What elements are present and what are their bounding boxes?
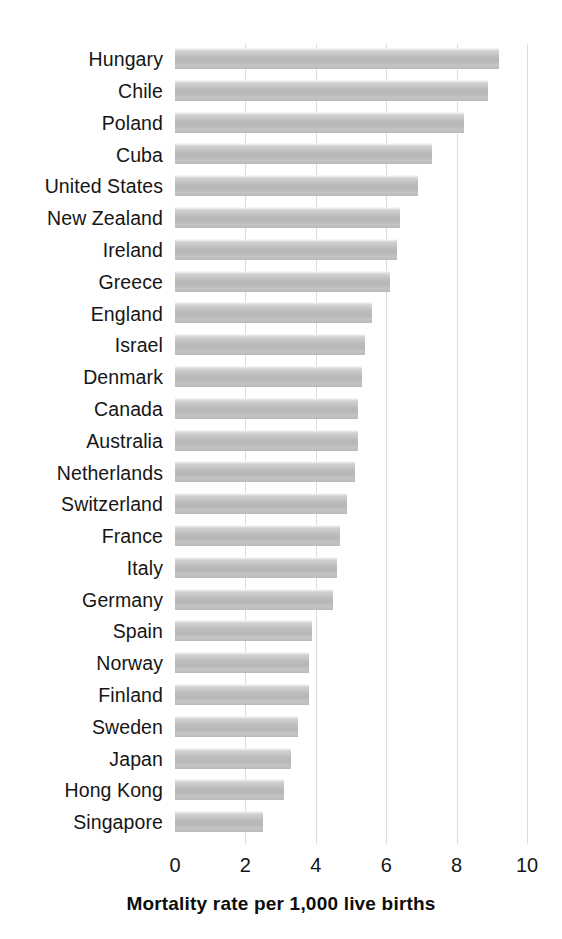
category-label: Cuba xyxy=(116,146,163,166)
bar-row xyxy=(175,489,527,521)
category-label: Norway xyxy=(96,654,163,674)
bar-row xyxy=(175,457,527,489)
bar xyxy=(175,207,400,228)
bar-row xyxy=(175,108,527,140)
bar-row xyxy=(175,298,527,330)
category-label-row: Japan xyxy=(0,744,163,776)
bar-row xyxy=(175,139,527,171)
category-label: Hungary xyxy=(89,50,163,70)
bar-row xyxy=(175,203,527,235)
bar-row xyxy=(175,648,527,680)
x-tick-label-2: 2 xyxy=(240,855,251,875)
category-label-row: Canada xyxy=(0,394,163,426)
bar xyxy=(175,366,362,387)
bar-row xyxy=(175,553,527,585)
category-label-row: United States xyxy=(0,171,163,203)
category-label-row: Ireland xyxy=(0,235,163,267)
category-label-row: Italy xyxy=(0,553,163,585)
bar xyxy=(175,398,358,419)
category-label: Canada xyxy=(94,400,163,420)
category-label-row: Germany xyxy=(0,585,163,617)
bar xyxy=(175,652,309,673)
infant-mortality-bar-chart: HungaryChilePolandCubaUnited StatesNew Z… xyxy=(0,0,562,939)
bar xyxy=(175,589,333,610)
category-label-row: Spain xyxy=(0,616,163,648)
category-label: Finland xyxy=(98,686,163,706)
category-label-row: Cuba xyxy=(0,139,163,171)
bar-row xyxy=(175,235,527,267)
bar xyxy=(175,716,298,737)
category-label-row: Hong Kong xyxy=(0,775,163,807)
x-axis-title: Mortality rate per 1,000 live births xyxy=(0,893,562,915)
category-label-row: Switzerland xyxy=(0,489,163,521)
bar xyxy=(175,748,291,769)
x-axis-tick-labels: 0246810 xyxy=(175,855,527,885)
bar-row xyxy=(175,807,527,839)
category-label: Denmark xyxy=(83,368,163,388)
bar xyxy=(175,143,432,164)
category-label: New Zealand xyxy=(47,209,163,229)
bar xyxy=(175,271,390,292)
bar xyxy=(175,493,347,514)
category-label: Japan xyxy=(109,750,163,770)
bar-row xyxy=(175,330,527,362)
bar-row xyxy=(175,744,527,776)
bar xyxy=(175,80,488,101)
category-label-row: France xyxy=(0,521,163,553)
category-label-row: Norway xyxy=(0,648,163,680)
category-label: Germany xyxy=(82,591,163,611)
category-label: Chile xyxy=(118,82,163,102)
category-label-row: Australia xyxy=(0,426,163,458)
category-label-row: Hungary xyxy=(0,44,163,76)
bar xyxy=(175,620,312,641)
bar xyxy=(175,684,309,705)
category-label: Australia xyxy=(86,432,163,452)
category-label: Netherlands xyxy=(57,464,163,484)
category-label-row: Denmark xyxy=(0,362,163,394)
bar-row xyxy=(175,775,527,807)
category-label: Hong Kong xyxy=(65,781,163,801)
category-label-row: Israel xyxy=(0,330,163,362)
category-label: England xyxy=(91,305,163,325)
x-tick-label-4: 4 xyxy=(310,855,321,875)
bar xyxy=(175,239,397,260)
category-label: United States xyxy=(45,177,163,197)
bar-row xyxy=(175,521,527,553)
category-label: France xyxy=(102,527,163,547)
bar-row xyxy=(175,616,527,648)
bar xyxy=(175,302,372,323)
bar-row xyxy=(175,585,527,617)
x-tick-label-6: 6 xyxy=(381,855,392,875)
category-label: Switzerland xyxy=(61,495,163,515)
category-label: Poland xyxy=(102,114,163,134)
x-tick-label-0: 0 xyxy=(169,855,180,875)
category-label-row: Chile xyxy=(0,76,163,108)
bar xyxy=(175,811,263,832)
category-label-row: England xyxy=(0,298,163,330)
bar-row xyxy=(175,426,527,458)
bar xyxy=(175,48,499,69)
bar-row xyxy=(175,44,527,76)
category-label: Spain xyxy=(113,622,163,642)
category-label-row: Netherlands xyxy=(0,457,163,489)
category-axis-labels: HungaryChilePolandCubaUnited StatesNew Z… xyxy=(0,44,163,844)
category-label: Israel xyxy=(115,336,163,356)
category-label-row: Singapore xyxy=(0,807,163,839)
bar xyxy=(175,525,340,546)
bar-rows xyxy=(175,44,527,839)
bar-row xyxy=(175,680,527,712)
plot-area xyxy=(175,44,527,844)
bar-row xyxy=(175,171,527,203)
bar xyxy=(175,779,284,800)
bar xyxy=(175,430,358,451)
bar xyxy=(175,557,337,578)
bar-row xyxy=(175,76,527,108)
bar xyxy=(175,461,355,482)
bar-row xyxy=(175,362,527,394)
category-label: Singapore xyxy=(73,813,163,833)
category-label-row: Poland xyxy=(0,108,163,140)
bar-row xyxy=(175,394,527,426)
category-label-row: New Zealand xyxy=(0,203,163,235)
category-label-row: Greece xyxy=(0,267,163,299)
category-label: Ireland xyxy=(103,241,163,261)
